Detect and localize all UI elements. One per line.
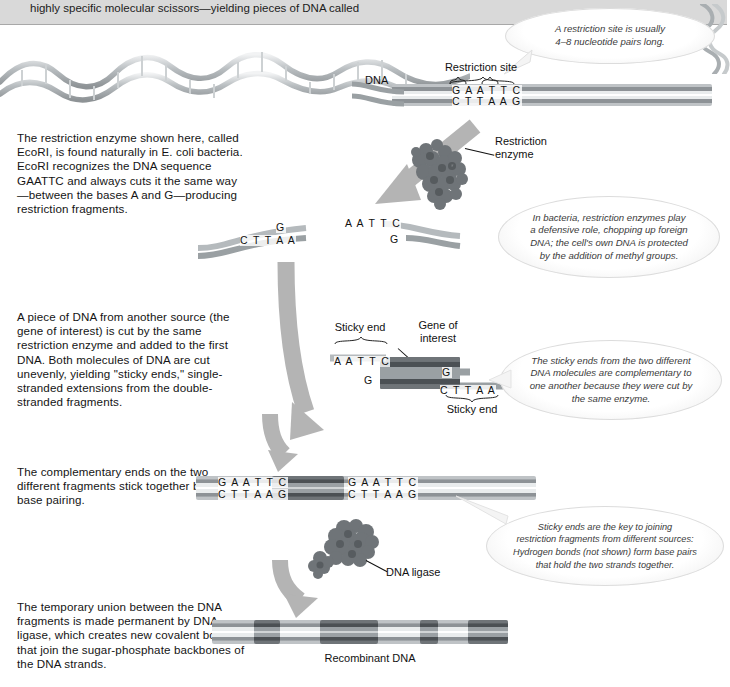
sequence-joined-right-bottom: C T T A A G <box>348 489 418 500</box>
step-1-text: The restriction enzyme shown here, calle… <box>17 131 245 216</box>
label-restriction-enzyme: Restriction enzyme <box>495 135 547 161</box>
sequence-joined-right-top: G A A T T C <box>348 477 418 488</box>
step-2-text: A piece of DNA from another source (the … <box>17 310 245 409</box>
callout-line: In bacteria, restriction enzymes play <box>530 212 688 225</box>
restriction-enzyme-blob <box>404 134 476 212</box>
callout-sticky-ends-complementary: The sticky ends from the two different D… <box>500 340 722 420</box>
callout-tail-sticky-complementary <box>487 368 517 392</box>
label-restriction-site: Restriction site <box>432 61 530 74</box>
callout-line: DNA molecules are complementary to <box>530 367 693 380</box>
callout-line: Hydrogen bonds (not shown) form base pai… <box>513 546 697 559</box>
label-recombinant-dna: Recombinant DNA <box>290 652 450 665</box>
recombinant-segment-d <box>468 620 508 644</box>
callout-bacteria-defense: In bacteria, restriction enzymes play a … <box>498 196 720 278</box>
step-3-body: The complementary ends on the two differ… <box>17 465 208 506</box>
recombinant-segment-c <box>420 620 438 644</box>
callout-tail-sticky-key <box>452 494 512 528</box>
label-gene-of-interest: Gene of interest <box>405 319 471 345</box>
callout-line: one another because they were cut by <box>530 380 693 393</box>
callout-line: Sticky ends are the key to joining <box>513 521 697 534</box>
sequence-gene-right-top: G <box>442 367 452 378</box>
callout-sticky-ends-key: Sticky ends are the key to joining restr… <box>486 506 724 586</box>
sequence-site-bottom: C T T A A G <box>452 96 522 107</box>
label-sticky-end-top: Sticky end <box>325 321 395 334</box>
callout-line: restriction fragments from different sou… <box>513 533 697 546</box>
sticky-end-top-brace <box>333 336 389 345</box>
callout-line: the same enzyme. <box>530 393 693 406</box>
label-sticky-end-bottom: Sticky end <box>436 403 508 416</box>
arrow-base-pairing <box>258 414 328 474</box>
sequence-gene-left-top: A A T T C <box>334 356 390 367</box>
callout-line: that hold the two strands together. <box>513 559 697 572</box>
arrow-ligation <box>272 560 352 622</box>
callout-line: The sticky ends from the two different <box>530 355 693 368</box>
callout-line: a defensive role, chopping up foreign <box>530 224 688 237</box>
sticky-end-bottom-brace <box>444 394 500 403</box>
sequence-cut-left-bottom: C T T A A <box>240 235 296 246</box>
sequence-cut-right-top: A A T T C <box>345 218 401 229</box>
callout-line: 4–8 nucleotide pairs long. <box>555 36 665 49</box>
callout-line: A restriction site is usually <box>555 23 665 36</box>
sequence-cut-right-bottom: G <box>390 234 400 245</box>
recombinant-segment-a <box>254 620 280 644</box>
dna-helix-join <box>352 78 404 112</box>
top-cut-text: highly specific molecular scissors—yield… <box>30 1 550 16</box>
callout-line: DNA; the cell's own DNA is protected <box>530 237 688 250</box>
dna-duplex-row1 <box>392 84 712 106</box>
recombinant-segment-b <box>320 620 378 644</box>
label-dna-ligase: DNA ligase <box>386 566 440 579</box>
step-1-body: The restriction enzyme shown here, calle… <box>17 131 243 215</box>
sequence-gene-left-bottom: G <box>364 375 374 386</box>
sequence-joined-left-bottom: C T T A A G <box>218 489 288 500</box>
step-2-body: A piece of DNA from another source (the … <box>17 310 230 408</box>
callout-line: by the addition of methyl groups. <box>530 250 688 263</box>
step-4-text: The temporary union between the DNA frag… <box>17 600 245 671</box>
step-4-body: The temporary union between the DNA frag… <box>17 600 244 670</box>
sequence-joined-left-top: G A A T T C <box>218 477 288 488</box>
sequence-cut-left-top: G <box>276 222 286 233</box>
